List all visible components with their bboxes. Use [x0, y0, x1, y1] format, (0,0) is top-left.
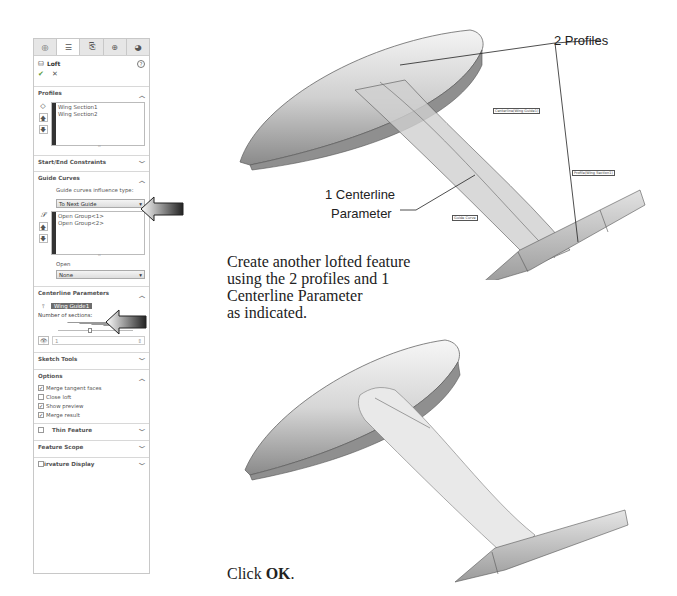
thin-feature-checkbox[interactable] [38, 427, 44, 433]
guide-curves-header[interactable]: Guide Curves︿ [38, 175, 145, 184]
merge-result-checkbox[interactable]: ✓Merge result [38, 412, 145, 418]
show-preview-checkbox[interactable]: ✓Show preview [38, 403, 145, 409]
centerline-header[interactable]: Centerline Parameters︿ [38, 290, 145, 299]
profiles-list[interactable]: Wing Section1 Wing Section2 ▫ [51, 102, 145, 146]
chevron-down-icon: ﹀ [139, 159, 145, 168]
thin-feature-section[interactable]: Thin Feature﹀ [34, 423, 149, 440]
resize-handle[interactable]: ▫ [98, 252, 101, 257]
loft-result-model [230, 320, 630, 590]
pm-title: Loft [47, 60, 137, 67]
profiles-callout: 2 Profiles [554, 33, 608, 48]
centerline-icon: ⫯ [38, 302, 48, 310]
dropdown-arrow-icon: ▾ [139, 272, 142, 277]
guide-curves-section: Guide Curves︿ Guide curves influence typ… [34, 171, 149, 282]
slider-knob[interactable] [88, 328, 92, 333]
show-preview-eye-icon[interactable]: 👁 [38, 336, 49, 345]
manager-tabs: ◎ ☰ ⎘ ⊕ ◕ [34, 39, 149, 56]
profile-tag: Profile(Wing Section1) [572, 170, 615, 176]
curvature-display-section[interactable]: irvature Display﹀ [34, 457, 149, 474]
sections-input[interactable]: 1⇕ [52, 336, 145, 345]
options-header[interactable]: Options︿ [38, 373, 145, 382]
chevron-down-icon: ﹀ [139, 461, 145, 470]
guide-curve-tag: Guide Curve [452, 215, 478, 221]
guide-curves-list[interactable]: Open Group<1> Open Group<2> ▫ [51, 211, 145, 255]
centerline-selection[interactable]: Wing Guide1 [51, 303, 92, 309]
move-up-button[interactable]: 🡅 [39, 222, 48, 231]
instruction-text: Create another lofted feature using the … [227, 253, 410, 321]
chevron-up-icon: ︿ [139, 90, 145, 99]
profiles-section: Profiles︿ ◇ 🡅 🡇 Wing Section1 Wing Secti… [34, 86, 149, 149]
pointer-arrow-icon [140, 196, 184, 222]
resize-handle[interactable]: ▫ [98, 143, 101, 148]
chevron-up-icon: ︿ [139, 175, 145, 184]
list-item[interactable]: Wing Section1 [58, 104, 98, 111]
merge-tangent-faces-checkbox[interactable]: ✓Merge tangent faces [38, 385, 145, 391]
profiles-header[interactable]: Profiles︿ [38, 90, 145, 99]
open-label: Open [56, 261, 145, 267]
click-ok-text: Click OK. [227, 565, 295, 582]
list-item[interactable]: Open Group<1> [58, 213, 104, 220]
feature-scope-section[interactable]: Feature Scope﹀ [34, 440, 149, 457]
ok-button[interactable]: ✔ [38, 70, 44, 78]
list-item[interactable]: Open Group<2> [58, 220, 104, 227]
help-icon[interactable]: ? [137, 60, 145, 68]
close-loft-checkbox[interactable]: Close loft [38, 394, 145, 400]
centerline-tag: Centerline(Wing Guide1) [493, 108, 540, 114]
options-section: Options︿ ✓Merge tangent faces Close loft… [34, 369, 149, 421]
guide-curve-icon: 𝒮 [41, 211, 46, 219]
feature-manager-icon[interactable]: ◎ [34, 39, 57, 55]
list-item[interactable]: Wing Section2 [58, 111, 98, 118]
centerline-callout-line2: Parameter [331, 206, 392, 221]
centerline-callout-line1: 1 Centerline [325, 187, 395, 202]
influence-label: Guide curves influence type: [56, 187, 145, 193]
move-down-button[interactable]: 🡇 [39, 125, 48, 134]
influence-type-select[interactable]: To Next Guide▾ [56, 199, 145, 208]
property-manager-icon[interactable]: ☰ [57, 39, 80, 55]
loft-icon: ⛁ [38, 60, 44, 68]
sketch-tools-section[interactable]: Sketch Tools﹀ [34, 352, 149, 369]
chevron-down-icon: ﹀ [139, 444, 145, 453]
chevron-up-icon: ︿ [139, 290, 145, 299]
pointer-arrow-icon [105, 309, 147, 335]
chevron-down-icon: ﹀ [139, 356, 145, 365]
cancel-button[interactable]: ✕ [52, 70, 58, 78]
loft-preview-model [220, 20, 660, 280]
loft-property-manager: ◎ ☰ ⎘ ⊕ ◕ ⛁ Loft ? ✔ ✕ Profiles︿ ◇ 🡅 🡇 W… [33, 38, 150, 574]
pm-header: ⛁ Loft ? [34, 56, 149, 68]
profile-icon: ◇ [40, 102, 45, 110]
chevron-down-icon: ﹀ [139, 427, 145, 436]
ok-emphasis: OK [266, 565, 291, 582]
move-up-button[interactable]: 🡅 [39, 113, 48, 122]
move-down-button[interactable]: 🡇 [39, 234, 48, 243]
start-end-constraints-section[interactable]: Start/End Constraints﹀ [34, 155, 149, 171]
open-select[interactable]: None▾ [56, 270, 145, 279]
dimxpert-icon[interactable]: ⊕ [104, 39, 127, 55]
spin-arrows-icon[interactable]: ⇕ [137, 338, 142, 343]
display-manager-icon[interactable]: ◕ [127, 39, 149, 55]
chevron-up-icon: ︿ [139, 373, 145, 382]
configuration-manager-icon[interactable]: ⎘ [80, 39, 103, 55]
